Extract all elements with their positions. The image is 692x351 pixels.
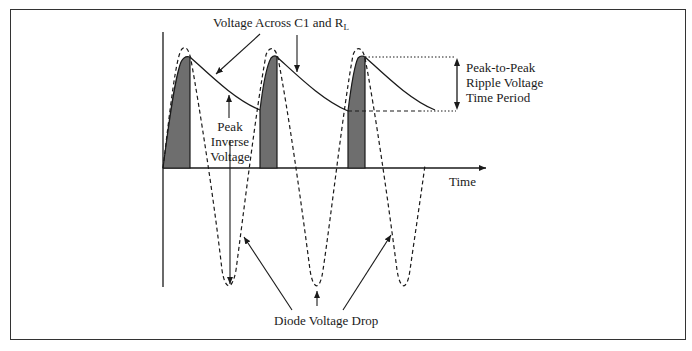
- capacitor-voltage-curve: [190, 57, 435, 111]
- voltage-across-subscript: L: [343, 22, 349, 32]
- peak-inverse-line1: Peak: [206, 119, 254, 134]
- ripple-label: Peak-to-Peak Ripple Voltage Time Period: [466, 60, 543, 105]
- ripple-arrow-up-head: [454, 58, 460, 66]
- waveform-diagram: [0, 0, 692, 351]
- diode-drop-arrow-left: [244, 237, 292, 310]
- ripple-line2: Ripple Voltage: [466, 75, 543, 90]
- ripple-arrow-down-head: [454, 102, 460, 110]
- diode-drop-label: Diode Voltage Drop: [274, 313, 378, 328]
- ripple-line1: Peak-to-Peak: [466, 60, 543, 75]
- diode-drop-arrow-right: [343, 235, 391, 310]
- peak-inverse-line2: Inverse: [206, 134, 254, 149]
- voltage-across-label: Voltage Across C1 and RL: [213, 15, 349, 35]
- time-axis-label: Time: [449, 174, 476, 189]
- input-sine-wave: [163, 48, 425, 286]
- peak-inverse-line3: Voltage: [206, 149, 254, 164]
- voltage-across-arrow-left: [216, 34, 260, 74]
- conduction-fills: [163, 56, 365, 168]
- ripple-line3: Time Period: [466, 90, 543, 105]
- voltage-across-text: Voltage Across C1 and R: [213, 15, 343, 30]
- peak-inverse-label: Peak Inverse Voltage: [206, 119, 254, 164]
